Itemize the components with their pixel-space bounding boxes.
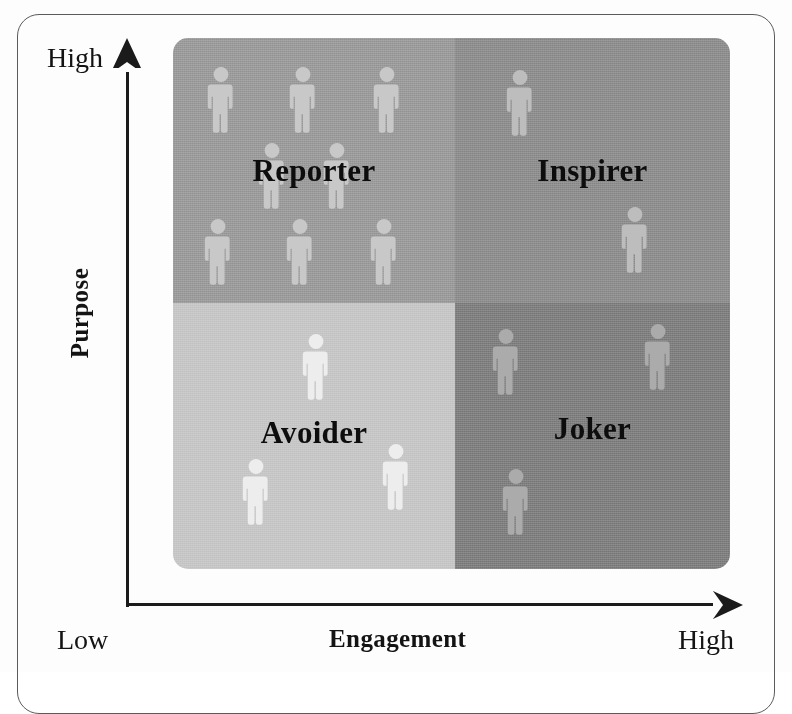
- person-icon: [505, 69, 535, 147]
- y-axis-arrow-icon: [113, 38, 141, 68]
- x-axis-title: Engagement: [329, 625, 466, 653]
- quadrant-inspirer[interactable]: Inspirer: [455, 38, 730, 303]
- y-axis-high-label: High: [47, 42, 103, 74]
- x-axis-high-label: High: [678, 624, 734, 656]
- person-icon: [372, 66, 402, 144]
- person-icon: [301, 333, 331, 411]
- person-icon: [369, 218, 399, 296]
- person-icon: [241, 458, 271, 536]
- quadrant-label-joker: Joker: [455, 411, 730, 447]
- quadrant-label-reporter: Reporter: [173, 153, 455, 189]
- x-axis-arrow-icon: [713, 591, 743, 619]
- quadrant-matrix: Reporter Inspirer Avoider Joker: [173, 38, 730, 569]
- person-icon: [501, 468, 531, 546]
- x-axis-low-label: Low: [57, 624, 108, 656]
- person-icon: [643, 323, 673, 401]
- person-icon: [203, 218, 233, 296]
- person-icon: [288, 66, 318, 144]
- quadrant-joker[interactable]: Joker: [455, 303, 730, 569]
- y-axis-line: [126, 62, 129, 607]
- y-axis-title: Purpose: [66, 253, 94, 373]
- quadrant-avoider[interactable]: Avoider: [173, 303, 455, 569]
- quadrant-reporter[interactable]: Reporter: [173, 38, 455, 303]
- x-axis-line: [126, 603, 732, 606]
- person-icon: [285, 218, 315, 296]
- person-icon: [381, 443, 411, 521]
- person-icon: [620, 206, 650, 284]
- person-icon: [491, 328, 521, 406]
- quadrant-label-avoider: Avoider: [173, 415, 455, 451]
- quadrant-label-inspirer: Inspirer: [455, 153, 730, 189]
- person-icon: [206, 66, 236, 144]
